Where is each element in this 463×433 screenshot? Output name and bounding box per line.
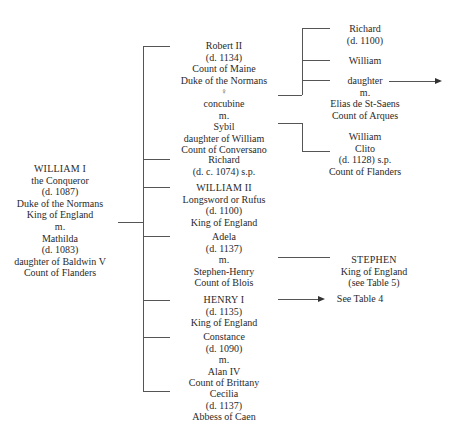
tick-cecilia bbox=[143, 391, 170, 392]
root-connector-line bbox=[118, 222, 143, 223]
robert-concubine-spine bbox=[302, 28, 303, 95]
title: Duke of the Normans bbox=[5, 198, 115, 210]
name: WILLIAM II bbox=[168, 182, 280, 194]
name: William bbox=[330, 55, 400, 67]
person-henry-i: HENRY I (d. 1135) King of England bbox=[168, 294, 280, 329]
title: Duke of the Normans bbox=[168, 75, 280, 87]
death: (d. 1100) bbox=[330, 35, 400, 47]
person-stephen: STEPHEN King of England (see Table 5) bbox=[324, 254, 424, 289]
henry-ref-line bbox=[278, 299, 318, 300]
robert-concubine-connector bbox=[278, 95, 302, 96]
tick-william-gc bbox=[302, 60, 330, 61]
marriage-marker: m. bbox=[5, 221, 115, 233]
adela-stephen-line bbox=[278, 257, 330, 258]
person-daughter-gc: daughter m. Elias de St-Saens Count of A… bbox=[315, 75, 415, 121]
tick-william2 bbox=[143, 187, 170, 188]
person-constance: Constance (d. 1090) m. Alan IV Count of … bbox=[168, 331, 280, 389]
daughter-arrow-icon bbox=[435, 78, 442, 84]
tick-henry1 bbox=[143, 300, 170, 301]
cross-reference: (see Table 5) bbox=[324, 277, 424, 289]
robert-sybil-connector bbox=[278, 123, 302, 124]
children-spine-line bbox=[143, 46, 144, 391]
spouse-parentage: daughter of Baldwin V bbox=[5, 256, 115, 268]
death: (d. 1135) bbox=[168, 306, 280, 318]
death: (d. 1090) bbox=[168, 343, 280, 355]
spouse-name: Mathilda bbox=[5, 233, 115, 245]
spouse-name: Alan IV bbox=[168, 366, 280, 378]
spouse-name: Sybil bbox=[168, 121, 280, 133]
name: Adela bbox=[168, 231, 280, 243]
female-symbol-icon: ♀ bbox=[168, 86, 280, 98]
spouse-title: Count of Flanders bbox=[5, 267, 115, 279]
tick-adela bbox=[143, 236, 170, 237]
henry-ref-arrow-icon bbox=[318, 296, 325, 302]
title: Count of Maine bbox=[168, 63, 280, 75]
name: Richard bbox=[168, 154, 280, 166]
name: WILLIAM I bbox=[5, 163, 115, 175]
name: William bbox=[315, 131, 415, 143]
robert-sybil-spine bbox=[302, 123, 303, 151]
title: King of England bbox=[5, 209, 115, 221]
spouse-title: Count of Arques bbox=[315, 110, 415, 122]
death: (d. 1087) bbox=[5, 186, 115, 198]
name: HENRY I bbox=[168, 294, 280, 306]
name: daughter bbox=[315, 75, 415, 87]
death: (d. 1128) s.p. bbox=[315, 154, 415, 166]
person-william-i: WILLIAM I the Conqueror (d. 1087) Duke o… bbox=[5, 163, 115, 279]
epithet: Longsword or Rufus bbox=[168, 194, 280, 206]
spouse-name: Elias de St-Saens bbox=[315, 98, 415, 110]
person-richard: Richard (d. c. 1074) s.p. bbox=[168, 154, 280, 177]
person-william-gc: William bbox=[330, 55, 400, 67]
spouse-name: Stephen-Henry bbox=[168, 266, 280, 278]
partner: concubine bbox=[168, 98, 280, 110]
spouse-title: Count of Blois bbox=[168, 277, 280, 289]
name: Richard bbox=[330, 23, 400, 35]
person-richard-gc: Richard (d. 1100) bbox=[330, 23, 400, 46]
death: (d. c. 1074) s.p. bbox=[168, 166, 280, 178]
name: Cecilia bbox=[168, 388, 280, 400]
henry-table-reference: See Table 4 bbox=[330, 293, 390, 305]
death: (d. 1137) bbox=[168, 243, 280, 255]
spouse-parentage: daughter of William bbox=[168, 133, 280, 145]
person-cecilia: Cecilia (d. 1137) Abbess of Caen bbox=[168, 388, 280, 423]
death: (d. 1134) bbox=[168, 52, 280, 64]
marriage-marker: m. bbox=[315, 87, 415, 99]
marriage-marker: m. bbox=[168, 254, 280, 266]
marriage-marker: m. bbox=[168, 110, 280, 122]
person-robert-ii: Robert II (d. 1134) Count of Maine Duke … bbox=[168, 40, 280, 156]
epithet: Clito bbox=[315, 143, 415, 155]
name: STEPHEN bbox=[324, 254, 424, 266]
tick-constance bbox=[143, 337, 170, 338]
title: King of England bbox=[324, 266, 424, 278]
tick-robert bbox=[143, 46, 170, 47]
person-william-clito: William Clito (d. 1128) s.p. Count of Fl… bbox=[315, 131, 415, 177]
epithet: the Conqueror bbox=[5, 175, 115, 187]
cross-reference: See Table 4 bbox=[330, 293, 390, 305]
tick-richard bbox=[143, 159, 170, 160]
name: Constance bbox=[168, 331, 280, 343]
title: Count of Flanders bbox=[315, 166, 415, 178]
marriage-marker: m. bbox=[168, 354, 280, 366]
spouse-death: (d. 1083) bbox=[5, 244, 115, 256]
title: King of England bbox=[168, 217, 280, 229]
tick-richard-gc bbox=[302, 28, 330, 29]
person-william-ii: WILLIAM II Longsword or Rufus (d. 1100) … bbox=[168, 182, 280, 228]
person-adela: Adela (d. 1137) m. Stephen-Henry Count o… bbox=[168, 231, 280, 289]
name: Robert II bbox=[168, 40, 280, 52]
death: (d. 1137) bbox=[168, 400, 280, 412]
death: (d. 1100) bbox=[168, 205, 280, 217]
title: Abbess of Caen bbox=[168, 411, 280, 423]
title: King of England bbox=[168, 317, 280, 329]
